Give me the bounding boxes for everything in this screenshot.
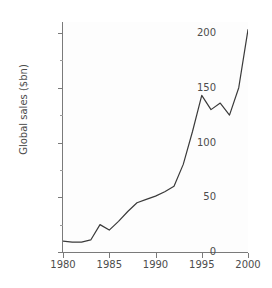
x-axis-tick-labels: 19801985199019952000 — [0, 0, 272, 288]
x-tick-label-1980: 1980 — [50, 260, 75, 270]
chart-figure: 050100150200 19801985199019952000 Global… — [0, 0, 272, 288]
x-tick-label-1995: 1995 — [189, 260, 214, 270]
x-tick-label-1985: 1985 — [97, 260, 122, 270]
x-tick-label-2000: 2000 — [235, 260, 260, 270]
y-axis-title: Global sales ($bn) — [18, 35, 29, 185]
x-tick-label-1990: 1990 — [143, 260, 168, 270]
